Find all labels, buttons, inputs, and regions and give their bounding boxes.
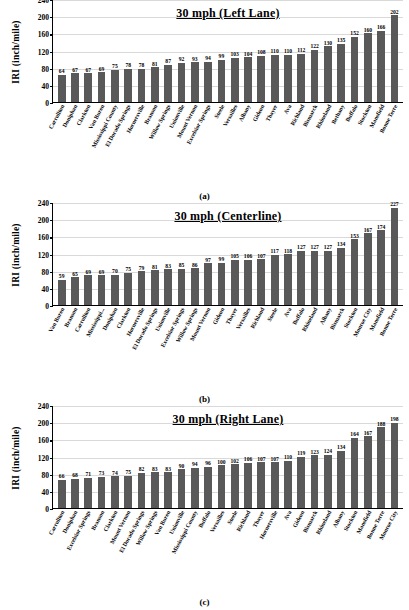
bar-value-label: 103 — [231, 52, 239, 58]
x-axis-tick: Bethany — [334, 103, 347, 163]
chart-panel-a: IRI (inch/mile)2402001601208040030 mph (… — [0, 0, 409, 203]
y-axis-tick-label: 120 — [27, 251, 49, 259]
bar: 75 — [111, 70, 119, 102]
bar: 167 — [364, 436, 372, 508]
y-axis-tick-label: 0 — [27, 506, 49, 514]
bar: 124 — [324, 455, 332, 508]
bar-value-label: 108 — [257, 50, 265, 56]
bar: 134 — [337, 248, 345, 306]
bar-value-label: 107 — [257, 456, 265, 462]
bar-item: 108 — [255, 0, 268, 102]
x-axis-tick: Mississippi County — [187, 509, 200, 569]
bar: 81 — [151, 270, 159, 305]
bar-item: 71 — [82, 406, 95, 508]
chart-panel-c: IRI (inch/mile)2402001601208040030 mph (… — [0, 406, 409, 609]
bar-value-label: 75 — [112, 64, 118, 70]
y-axis-label-text: IRI (inch/mile) — [11, 20, 21, 83]
bar-value-label: 166 — [377, 25, 385, 31]
x-axis-tick: Hornersville — [134, 103, 147, 163]
x-axis-tick: Buffalo — [294, 306, 307, 366]
bar-value-label: 75 — [125, 267, 131, 273]
bar-item: 75 — [122, 406, 135, 508]
bar-item: 83 — [162, 406, 175, 508]
bar-item: 69 — [95, 203, 108, 305]
bar-value-label: 78 — [125, 62, 131, 68]
bar-item: 130 — [321, 0, 334, 102]
bar-item: 202 — [388, 0, 401, 102]
x-axis-tick: Ava — [281, 509, 294, 569]
bar-value-label: 167 — [364, 430, 372, 436]
bar-item: 79 — [135, 203, 148, 305]
bar-value-label: 134 — [337, 241, 345, 247]
bar-item: 87 — [162, 0, 175, 102]
bar-item: 81 — [148, 0, 161, 102]
bar-item: 85 — [175, 203, 188, 305]
x-axis-tick-label: Steele — [214, 104, 226, 120]
bar-value-label: 227 — [390, 202, 398, 208]
bar: 164 — [351, 438, 359, 508]
x-axis-tick: Bonne Terre — [388, 103, 401, 163]
x-axis-tick: Monroe City — [388, 509, 401, 569]
bar-value-label: 73 — [99, 471, 105, 477]
bar-value-label: 107 — [257, 253, 265, 259]
bar-item: 83 — [148, 406, 161, 508]
bar-value-label: 79 — [139, 265, 145, 271]
bar-value-label: 82 — [139, 467, 145, 473]
bar: 227 — [391, 208, 399, 305]
bar: 127 — [324, 251, 332, 306]
x-axis-tick: Rhineland — [308, 306, 321, 366]
bar-item: 167 — [361, 203, 374, 305]
x-axis-tick: Branson — [67, 306, 80, 366]
x-axis-tick: Steele — [214, 103, 227, 163]
bar: 81 — [151, 67, 159, 102]
bar: 67 — [84, 73, 92, 102]
bar-value-label: 110 — [284, 49, 292, 55]
bar-item: 68 — [68, 406, 81, 508]
x-axis-tick: Mansfield — [374, 103, 387, 163]
x-axis-tick: Versailles — [241, 306, 254, 366]
x-axis-tick: Mansfield — [374, 306, 387, 366]
bar: 118 — [284, 254, 292, 305]
bar-value-label: 104 — [244, 51, 252, 57]
x-axis-tick: Richland — [241, 509, 254, 569]
bar-value-label: 69 — [99, 66, 105, 72]
bar: 83 — [164, 472, 172, 508]
bar-item: 66 — [55, 406, 68, 508]
plot-area: IRI (inch/mile)2402001601208040030 mph (… — [52, 203, 403, 306]
x-axis-tick: Stockton — [348, 509, 361, 569]
x-axis-tick: Excelsior Springs — [81, 509, 94, 569]
bar-value-label: 127 — [310, 244, 318, 250]
bar-item: 92 — [175, 0, 188, 102]
bar-value-label: 99 — [219, 256, 225, 262]
bar: 87 — [164, 65, 172, 102]
bar-item: 97 — [201, 203, 214, 305]
x-axis-tick: Richland — [254, 306, 267, 366]
bar-item: 167 — [361, 406, 374, 508]
bar-item: 67 — [68, 0, 81, 102]
bar: 107 — [257, 259, 265, 305]
x-axis-tick: Bismarck — [308, 103, 321, 163]
bar-item: 94 — [188, 406, 201, 508]
bar-item: 110 — [281, 0, 294, 102]
bar-value-label: 105 — [231, 254, 239, 260]
bar-item: 69 — [95, 0, 108, 102]
bar-value-label: 71 — [85, 471, 91, 477]
bar: 106 — [244, 463, 252, 508]
bar: 108 — [257, 56, 265, 102]
bar-value-label: 94 — [205, 56, 211, 62]
bar: 107 — [257, 462, 265, 508]
bar-value-label: 174 — [377, 224, 385, 230]
x-axis-tick-label: Bethany — [331, 104, 346, 125]
bar: 71 — [84, 478, 92, 508]
x-axis-tick: Stockton — [361, 103, 374, 163]
bar: 117 — [271, 255, 279, 305]
bar-value-label: 97 — [205, 257, 211, 263]
bar-value-label: 87 — [165, 59, 171, 65]
x-axis-tick: Carrollton — [54, 103, 67, 163]
x-axis-tick: Rhineland — [321, 509, 334, 569]
bar: 107 — [271, 462, 279, 508]
bar-value-label: 81 — [152, 61, 158, 67]
bar-item: 107 — [268, 406, 281, 508]
x-axis-tick: Steele — [268, 306, 281, 366]
x-axis-tick: Bonne Terre — [388, 306, 401, 366]
